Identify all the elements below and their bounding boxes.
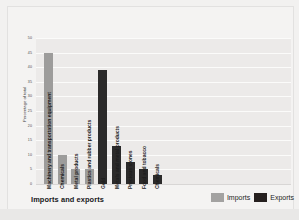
y-tick-label: 0 (16, 182, 32, 186)
gridline (36, 82, 291, 83)
bar-category-label: Metals and metal products (114, 126, 120, 189)
y-tick-label: 45 (16, 51, 32, 55)
bar (98, 70, 107, 184)
gridline (36, 67, 291, 68)
legend-item-exports: Exports (254, 193, 294, 202)
gridline (36, 96, 291, 97)
bar-category-label: Plastics and rubber products (86, 120, 92, 189)
bar-category-label: Gold (100, 178, 106, 189)
legend-item-imports: Imports (211, 193, 250, 202)
chart-figure: 50454035302520151050 Percentage of total… (0, 0, 299, 220)
gridline (36, 111, 291, 112)
legend-swatch-exports (254, 193, 267, 202)
y-axis-title: Percentage of total (22, 65, 27, 145)
bar-category-label: Chemicals (154, 164, 160, 189)
gridline (36, 38, 291, 39)
bar-category-label: Food and tobacco (141, 146, 147, 189)
chart-legend: Imports Exports (211, 193, 294, 202)
bar-category-label: Machinery and transportation equipment (46, 92, 52, 189)
bar-category-label: Chemicals (59, 164, 65, 189)
bar-category-label: Precious stones (127, 150, 133, 189)
chart-card: 50454035302520151050 Percentage of total… (7, 6, 294, 211)
gridline (36, 126, 291, 127)
y-tick-label: 50 (16, 36, 32, 40)
gridline (36, 140, 291, 141)
legend-swatch-imports (211, 193, 224, 202)
legend-label-exports: Exports (270, 194, 294, 201)
y-tick-label: 5 (16, 167, 32, 171)
y-tick-label: 10 (16, 153, 32, 157)
gridline (36, 53, 291, 54)
chart-title: Imports and exports (31, 195, 104, 204)
legend-label-imports: Imports (227, 194, 250, 201)
bottom-strip (0, 209, 299, 220)
bar-category-label: Metal products (73, 153, 79, 189)
